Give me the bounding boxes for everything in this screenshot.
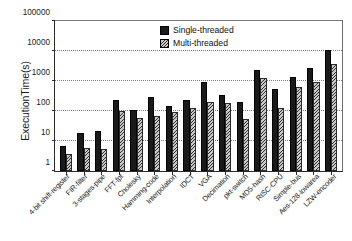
y-axis-tick-label: 100 — [36, 98, 55, 107]
y-axis-tick-label: 10 — [41, 128, 55, 137]
bar-group — [269, 21, 287, 171]
bar-multi-threaded — [84, 148, 90, 171]
bar-multi-threaded — [331, 64, 337, 171]
chart-legend: Single-threaded Multi-threaded — [160, 25, 234, 51]
y-axis-tick-label: 1 — [45, 158, 55, 167]
bar-multi-threaded — [243, 119, 249, 171]
bar-multi-threaded — [66, 154, 72, 171]
bar-multi-threaded — [313, 82, 319, 171]
bar-group — [110, 21, 128, 171]
bar-group — [305, 21, 323, 171]
legend-item-multi-threaded: Multi-threaded — [160, 38, 234, 48]
legend-item-single-threaded: Single-threaded — [160, 25, 234, 35]
execution-time-bar-chart: ExecutionTime(s) 110100100010000100000 S… — [0, 0, 352, 241]
bar-multi-threaded — [278, 108, 284, 171]
bar-multi-threaded — [119, 111, 125, 171]
bar-multi-threaded — [296, 87, 302, 171]
bar-multi-threaded — [101, 149, 107, 171]
bar-multi-threaded — [172, 112, 178, 171]
bar-group — [75, 21, 93, 171]
bar-group — [252, 21, 270, 171]
bar-multi-threaded — [225, 103, 231, 171]
bar-group — [57, 21, 75, 171]
x-axis-labels: 4-bit shift-registerFIR-filter3-stages-p… — [54, 172, 343, 241]
bar-group — [234, 21, 252, 171]
legend-swatch-multi-threaded-icon — [160, 39, 169, 48]
y-axis-tick-label: 10000 — [27, 38, 55, 47]
y-axis-tick-label: 1000 — [32, 68, 55, 77]
bar-multi-threaded — [190, 108, 196, 171]
bar-group — [287, 21, 305, 171]
bar-multi-threaded — [260, 78, 266, 171]
legend-label-single-threaded: Single-threaded — [173, 25, 234, 35]
bar-multi-threaded — [154, 116, 160, 171]
bar-multi-threaded — [207, 102, 213, 171]
bar-multi-threaded — [137, 118, 143, 171]
legend-label-multi-threaded: Multi-threaded — [173, 38, 228, 48]
x-axis-label: IDCT — [178, 172, 196, 190]
x-axis-label: 4-bit shift-register — [27, 172, 72, 217]
bar-group — [128, 21, 146, 171]
bar-group — [92, 21, 110, 171]
y-axis-tick-label: 100000 — [23, 8, 55, 17]
legend-swatch-single-threaded-icon — [160, 26, 169, 35]
bar-group — [322, 21, 340, 171]
